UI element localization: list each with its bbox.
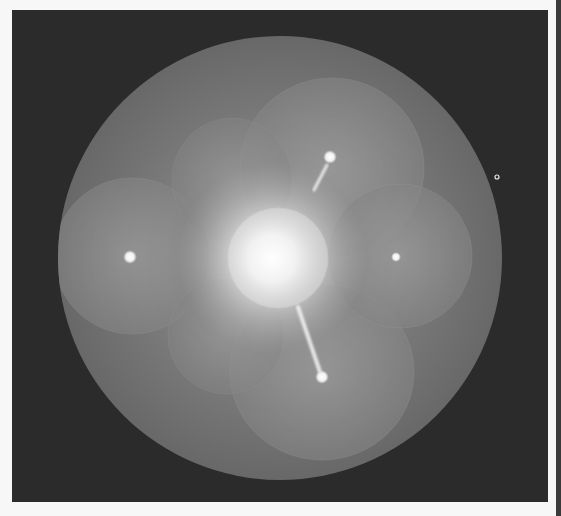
right-spot xyxy=(391,252,401,262)
ring-marker-icon xyxy=(495,175,499,179)
bottom-spot xyxy=(315,370,329,384)
left-spot xyxy=(123,250,137,264)
top-spot xyxy=(323,150,337,164)
diffraction-pattern xyxy=(0,0,561,516)
